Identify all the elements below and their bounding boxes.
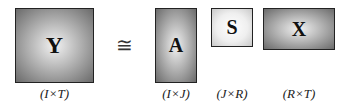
matrix-s: S — [211, 8, 253, 47]
matrix-y-dims: (I×T) — [15, 86, 94, 102]
matrix-x-dims: (R×T) — [269, 86, 329, 102]
matrix-x: X — [263, 8, 335, 50]
matrix-y-symbol: Y — [46, 32, 63, 59]
matrix-a-dims: (I×J) — [146, 86, 206, 102]
matrix-s-dims: (J×R) — [202, 86, 262, 102]
matrix-x-symbol: X — [292, 18, 306, 41]
approx-equal-operator: ≅ — [116, 33, 133, 57]
matrix-s-symbol: S — [226, 16, 237, 39]
matrix-a: A — [155, 8, 197, 83]
matrix-y: Y — [15, 8, 94, 83]
matrix-a-symbol: A — [169, 34, 183, 57]
